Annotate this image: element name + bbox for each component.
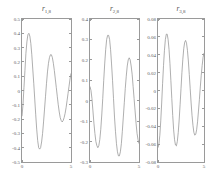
y-tick-label: -0.2 bbox=[12, 117, 20, 122]
y-tick-mark bbox=[202, 36, 204, 37]
x-tick-mark bbox=[139, 160, 140, 162]
y-tick-mark bbox=[90, 80, 92, 81]
y-tick-label: 0.5 bbox=[14, 17, 20, 22]
y-tick-mark bbox=[158, 36, 160, 37]
y-tick-mark bbox=[22, 47, 24, 48]
y-tick-label: -0.3 bbox=[12, 131, 20, 136]
y-tick-mark bbox=[22, 133, 24, 134]
y-tick-mark bbox=[137, 100, 139, 101]
y-tick-mark bbox=[202, 144, 204, 145]
y-tick-label: -0.4 bbox=[12, 145, 20, 150]
y-tick-mark bbox=[202, 108, 204, 109]
plot-axes-2: 0.40.30.20.10-0.1-0.2-0.305 bbox=[89, 18, 140, 163]
x-tick-label: 0 bbox=[157, 164, 160, 169]
y-tick-mark bbox=[90, 100, 92, 101]
panel-title-3: r3,8 bbox=[157, 4, 205, 16]
y-tick-mark bbox=[69, 90, 71, 91]
y-tick-mark bbox=[137, 141, 139, 142]
x-tick-mark bbox=[158, 19, 159, 21]
y-tick-label: 0.1 bbox=[14, 74, 20, 79]
y-tick-mark bbox=[22, 104, 24, 105]
x-tick-label: 5 bbox=[203, 164, 206, 169]
x-tick-label: 5 bbox=[138, 164, 141, 169]
y-tick-mark bbox=[69, 133, 71, 134]
y-tick-label: -0.1 bbox=[80, 119, 88, 124]
y-tick-mark bbox=[22, 61, 24, 62]
y-tick-label: -0.08 bbox=[146, 160, 156, 165]
y-tick-label: 0.08 bbox=[147, 17, 156, 22]
y-tick-mark bbox=[158, 90, 160, 91]
y-tick-mark bbox=[90, 121, 92, 122]
y-tick-label: 0.04 bbox=[147, 52, 156, 57]
y-tick-label: 0.2 bbox=[82, 57, 88, 62]
plot-axes-1: 0.50.40.30.20.10-0.1-0.2-0.3-0.4-0.505 bbox=[21, 18, 72, 163]
subplot-panel-1: r1,8 0.50.40.30.20.10-0.1-0.2-0.3-0.4-0.… bbox=[21, 0, 72, 181]
figure-canvas: r1,8 0.50.40.30.20.10-0.1-0.2-0.3-0.4-0.… bbox=[0, 0, 214, 181]
x-tick-mark bbox=[139, 19, 140, 21]
y-tick-mark bbox=[158, 144, 160, 145]
y-tick-mark bbox=[69, 76, 71, 77]
panel-title-subscript-2: 2,8 bbox=[113, 9, 119, 14]
y-tick-label: 0.02 bbox=[147, 70, 156, 75]
subplot-panel-2: r2,8 0.40.30.20.10-0.1-0.2-0.305 bbox=[89, 0, 140, 181]
x-tick-mark bbox=[158, 160, 159, 162]
y-tick-label: -0.06 bbox=[146, 142, 156, 147]
y-tick-mark bbox=[22, 90, 24, 91]
x-tick-label: 5 bbox=[70, 164, 73, 169]
y-tick-mark bbox=[69, 47, 71, 48]
y-tick-mark bbox=[22, 76, 24, 77]
y-tick-mark bbox=[90, 59, 92, 60]
y-tick-label: 0.1 bbox=[82, 78, 88, 83]
y-tick-label: -0.02 bbox=[146, 106, 156, 111]
y-tick-mark bbox=[69, 33, 71, 34]
y-tick-label: -0.04 bbox=[146, 124, 156, 129]
y-tick-mark bbox=[22, 147, 24, 148]
plot-axes-3: 0.080.060.040.020-0.02-0.04-0.06-0.0805 bbox=[157, 18, 205, 163]
x-tick-label: 0 bbox=[21, 164, 24, 169]
y-tick-mark bbox=[158, 54, 160, 55]
y-tick-mark bbox=[90, 141, 92, 142]
y-tick-label: -0.5 bbox=[12, 160, 20, 165]
x-tick-mark bbox=[90, 160, 91, 162]
y-tick-label: 0 bbox=[154, 88, 157, 93]
subplot-panel-3: r3,8 0.080.060.040.020-0.02-0.04-0.06-0.… bbox=[157, 0, 205, 181]
y-tick-label: 0 bbox=[86, 98, 89, 103]
panel-title-subscript-3: 3,8 bbox=[179, 9, 185, 14]
y-tick-label: 0.3 bbox=[14, 45, 20, 50]
panel-title-2: r2,8 bbox=[89, 4, 140, 16]
x-tick-mark bbox=[204, 160, 205, 162]
series-svg-1 bbox=[22, 19, 71, 162]
y-tick-mark bbox=[22, 33, 24, 34]
y-tick-mark bbox=[22, 119, 24, 120]
y-tick-mark bbox=[90, 39, 92, 40]
y-tick-label: -0.2 bbox=[80, 139, 88, 144]
y-tick-label: 0.4 bbox=[82, 17, 88, 22]
x-tick-mark bbox=[90, 19, 91, 21]
y-tick-mark bbox=[202, 72, 204, 73]
panel-title-subscript-1: 1,8 bbox=[45, 9, 51, 14]
x-tick-mark bbox=[71, 19, 72, 21]
data-line-1 bbox=[22, 33, 71, 149]
y-tick-label: 0.06 bbox=[147, 34, 156, 39]
y-tick-label: -0.3 bbox=[80, 160, 88, 165]
data-line-3 bbox=[158, 34, 204, 147]
y-tick-label: -0.1 bbox=[12, 102, 20, 107]
y-tick-mark bbox=[69, 104, 71, 105]
y-tick-mark bbox=[69, 119, 71, 120]
y-tick-mark bbox=[158, 126, 160, 127]
y-tick-label: 0.2 bbox=[14, 59, 20, 64]
y-tick-mark bbox=[137, 39, 139, 40]
y-tick-label: 0 bbox=[18, 88, 21, 93]
y-tick-mark bbox=[202, 54, 204, 55]
y-tick-mark bbox=[137, 121, 139, 122]
x-tick-mark bbox=[71, 160, 72, 162]
y-tick-mark bbox=[202, 126, 204, 127]
y-tick-label: 0.4 bbox=[14, 31, 20, 36]
y-tick-mark bbox=[69, 147, 71, 148]
x-tick-mark bbox=[22, 19, 23, 21]
x-tick-mark bbox=[22, 160, 23, 162]
series-svg-2 bbox=[90, 19, 139, 162]
panel-title-1: r1,8 bbox=[21, 4, 72, 16]
y-tick-label: 0.3 bbox=[82, 37, 88, 42]
series-svg-3 bbox=[158, 19, 204, 162]
